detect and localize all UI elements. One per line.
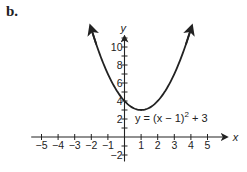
x-axis-label: x <box>232 131 239 143</box>
x-tick-label: −3 <box>69 139 81 151</box>
y-tick-label: 8 <box>117 59 123 71</box>
x-tick-label: 2 <box>155 139 161 151</box>
x-tick-label: 3 <box>171 139 177 151</box>
y-tick-label: 6 <box>117 77 123 89</box>
y-tick-label: 2 <box>117 113 123 125</box>
x-tick-label: −2 <box>85 139 97 151</box>
y-tick-label: −2 <box>111 149 123 161</box>
x-tick-label: 5 <box>205 139 211 151</box>
parabola-curve <box>92 32 190 110</box>
parabola-plot: −5−4−3−2−112345−2246810xyy = (x − 1)2 + … <box>0 0 247 172</box>
right-arrow-icon <box>186 26 192 44</box>
x-tick-label: −4 <box>52 139 64 151</box>
y-axis-label: y <box>120 22 128 34</box>
equation-label: y = (x − 1)2 + 3 <box>135 110 208 124</box>
y-tick-label: 10 <box>111 41 123 53</box>
left-arrow-icon <box>90 26 96 44</box>
x-tick-label: 4 <box>188 139 194 151</box>
x-tick-label: −5 <box>36 139 48 151</box>
x-tick-label: 1 <box>138 139 144 151</box>
